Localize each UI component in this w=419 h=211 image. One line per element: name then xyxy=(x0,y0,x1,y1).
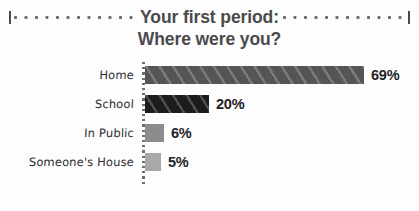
bar-category-label: In Public xyxy=(0,118,135,147)
bar-track: 20% xyxy=(145,89,419,118)
bar-category-label: School xyxy=(0,89,135,118)
bar-value-label: 6% xyxy=(171,125,192,141)
bar-chart: Home 69% School 20% In Public 6% xyxy=(0,60,419,188)
bar-value-label: 20% xyxy=(216,96,244,112)
bar-rows: Home 69% School 20% In Public 6% xyxy=(0,60,419,176)
bar-school xyxy=(145,95,209,113)
bar-category-label: Home xyxy=(0,60,135,89)
chart-title-line-2: Where were you? xyxy=(0,29,419,50)
bar-someones-house xyxy=(145,153,161,171)
chart-header: Your first period: Where were you? xyxy=(0,6,419,54)
infographic-root: Your first period: Where were you? Home … xyxy=(0,0,419,211)
dotted-leader-left-icon xyxy=(9,7,137,27)
bar-row: Home 69% xyxy=(0,60,419,89)
leader-cap-left xyxy=(9,11,12,24)
dotted-leader-right-icon xyxy=(283,7,411,27)
bar-row: School 20% xyxy=(0,89,419,118)
bar-value-label: 5% xyxy=(168,154,189,170)
leader-dots-left xyxy=(14,11,136,24)
chart-title-line-1: Your first period: xyxy=(140,7,279,27)
bar-row: In Public 6% xyxy=(0,118,419,147)
leader-cap-right xyxy=(408,11,411,24)
bar-home xyxy=(145,66,364,84)
bar-track: 69% xyxy=(145,60,419,89)
title-line-1-row: Your first period: xyxy=(0,6,419,28)
bar-track: 6% xyxy=(145,118,419,147)
bar-row: Someone's House 5% xyxy=(0,147,419,176)
bar-track: 5% xyxy=(145,147,419,176)
bar-in-public xyxy=(145,124,164,142)
bar-value-label: 69% xyxy=(371,67,399,83)
bar-category-label: Someone's House xyxy=(0,147,135,176)
leader-dots-right xyxy=(283,11,405,24)
